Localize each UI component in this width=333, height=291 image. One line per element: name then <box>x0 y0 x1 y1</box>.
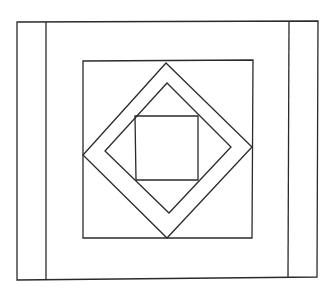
inner-diamond <box>105 83 231 213</box>
center-square <box>135 116 198 180</box>
quilt-block-figure <box>0 0 333 291</box>
outer-frame <box>17 21 318 280</box>
right-strip-divider <box>288 21 289 277</box>
